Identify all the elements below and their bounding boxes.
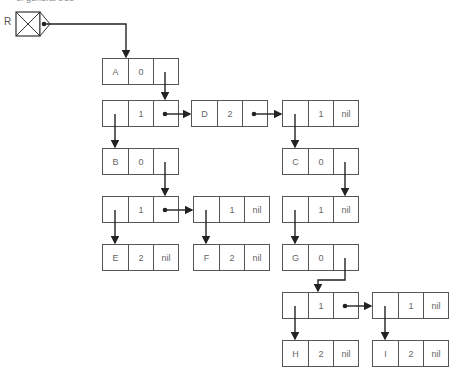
- pointer-arrows: [0, 0, 452, 372]
